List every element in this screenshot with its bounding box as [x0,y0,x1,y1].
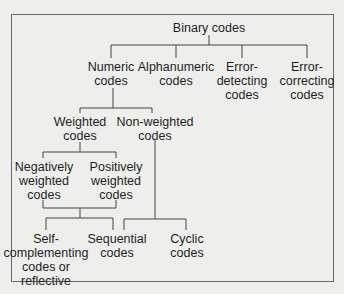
node-label: weighted [15,174,73,188]
node-label: codes [217,88,268,102]
node-label: correcting [280,74,335,88]
node-label: Alphanumeric [138,60,214,74]
node-label: Self- [4,232,89,246]
node-label: codes [170,246,203,260]
node-label: Sequential [87,232,146,246]
node-label: codes [138,74,214,88]
node-positively-weighted-codes: Positively weighted codes [90,160,143,202]
node-alphanumeric-codes: Alphanumeric codes [138,60,214,88]
node-label: Error- [280,60,335,74]
node-error-correcting-codes: Error- correcting codes [280,60,335,102]
node-label: Cyclic [170,232,203,246]
node-label: codes [88,74,135,88]
node-label: codes [87,246,146,260]
node-label: codes [15,188,73,202]
node-label: Numeric [88,60,135,74]
node-binary-codes: Binary codes [173,21,245,35]
node-negatively-weighted-codes: Negatively weighted codes [15,160,73,202]
node-cyclic-codes: Cyclic codes [170,232,203,260]
node-weighted-codes: Weighted codes [54,115,107,143]
node-label: detecting [217,74,268,88]
node-label: codes [90,188,143,202]
node-label: codes [116,129,193,143]
node-label: Negatively [15,160,73,174]
node-label: Weighted [54,115,107,129]
node-label: Non-weighted [116,115,193,129]
node-non-weighted-codes: Non-weighted codes [116,115,193,143]
node-label: Positively [90,160,143,174]
node-label: weighted [90,174,143,188]
node-label: complementing [4,246,89,260]
node-error-detecting-codes: Error- detecting codes [217,60,268,102]
node-sequential-codes: Sequential codes [87,232,146,260]
node-label: codes or [4,260,89,274]
node-label: codes [280,88,335,102]
node-numeric-codes: Numeric codes [88,60,135,88]
node-self-complementing-codes: Self- complementing codes or reflective [4,232,89,288]
node-label: Error- [217,60,268,74]
node-label: Binary codes [173,21,245,35]
node-label: codes [54,129,107,143]
node-label: reflective [4,274,89,288]
